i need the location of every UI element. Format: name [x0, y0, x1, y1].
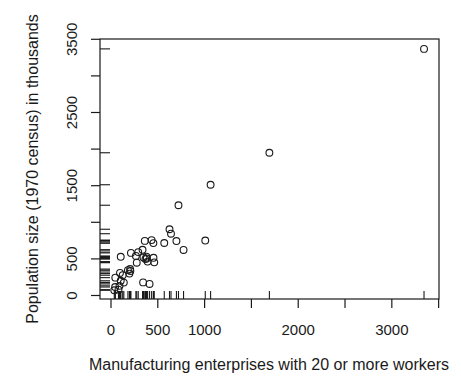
- data-point: [266, 149, 273, 156]
- data-point: [141, 237, 148, 244]
- data-point: [180, 247, 187, 254]
- y-axis: 0500150025003500: [64, 23, 101, 300]
- data-point: [207, 181, 214, 188]
- x-axis-title: Manufacturing enterprises with 20 or mor…: [89, 356, 449, 373]
- data-point: [140, 279, 147, 286]
- scatter-plot: 05001000200030000500150025003500 Manufac…: [0, 0, 461, 379]
- x-axis: 0500100020003000: [107, 299, 439, 338]
- data-point: [117, 253, 124, 260]
- data-point: [173, 238, 180, 245]
- y-axis-title: Population size (1970 census) in thousan…: [24, 14, 41, 324]
- x-tick-label: 3000: [375, 321, 408, 338]
- x-tick-label: 0: [107, 321, 115, 338]
- y-tick-label: 2500: [64, 96, 81, 129]
- x-tick-label: 500: [145, 321, 170, 338]
- plot-area: 05001000200030000500150025003500: [64, 23, 440, 338]
- data-point: [421, 45, 428, 52]
- x-tick-label: 1000: [188, 321, 221, 338]
- data-points: [111, 45, 428, 293]
- data-point: [128, 249, 135, 256]
- data-point: [202, 237, 209, 244]
- data-point: [150, 254, 157, 261]
- y-tick-label: 0: [64, 291, 81, 299]
- data-point: [133, 259, 140, 266]
- data-point: [161, 240, 168, 247]
- data-point: [168, 230, 175, 237]
- y-tick-label: 3500: [64, 23, 81, 56]
- data-point: [175, 202, 182, 209]
- data-point: [166, 226, 173, 233]
- data-point: [146, 281, 153, 288]
- y-tick-label: 1500: [64, 169, 81, 202]
- x-tick-label: 2000: [282, 321, 315, 338]
- scatter-figure: 05001000200030000500150025003500 Manufac…: [0, 0, 461, 379]
- y-tick-label: 500: [64, 246, 81, 271]
